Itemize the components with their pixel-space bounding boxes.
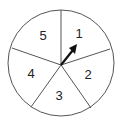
section-label-5: 5 — [39, 28, 46, 43]
section-label-1: 1 — [75, 26, 82, 41]
spinner-diagram: 1 2 3 4 5 — [0, 0, 120, 125]
section-label-2: 2 — [84, 67, 91, 82]
section-label-3: 3 — [55, 88, 62, 103]
section-label-4: 4 — [27, 66, 34, 81]
